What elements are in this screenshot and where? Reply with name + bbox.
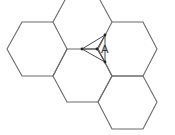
point-a-label: A <box>101 43 109 56</box>
hexagon-center <box>53 49 112 102</box>
vertex-dot-top <box>104 34 107 37</box>
hexagon-diagram: A <box>0 0 175 135</box>
edge-top-left <box>53 0 65 22</box>
hexagon-left <box>7 22 67 76</box>
vertex-dot-left <box>81 48 84 51</box>
point-a-dot <box>96 48 99 51</box>
hexagon-bottom-right <box>98 76 157 129</box>
edge-top-right <box>100 0 112 22</box>
vertex-dot-bottom <box>104 61 107 64</box>
